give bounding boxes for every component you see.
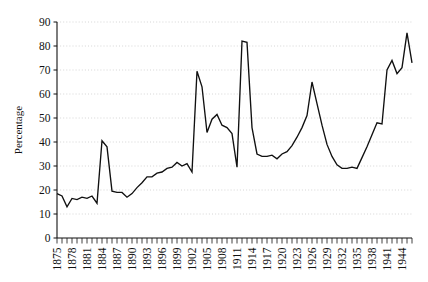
x-tick-label: 1887 bbox=[111, 247, 123, 270]
x-tick-label: 1908 bbox=[216, 247, 228, 270]
y-tick-label: 0 bbox=[45, 232, 51, 244]
x-tick-label: 1896 bbox=[156, 247, 168, 270]
y-tick-label: 20 bbox=[39, 184, 51, 196]
x-tick-label: 1929 bbox=[321, 247, 333, 270]
x-tick-label: 1917 bbox=[261, 247, 273, 270]
x-tick-label: 1911 bbox=[231, 247, 243, 270]
x-tick-label: 1926 bbox=[306, 247, 318, 270]
y-tick-label: 70 bbox=[39, 64, 51, 76]
x-tick-label: 1881 bbox=[81, 247, 93, 270]
y-tick-label: 80 bbox=[39, 40, 51, 52]
axes bbox=[57, 22, 412, 238]
x-tick-label: 1932 bbox=[336, 247, 348, 270]
x-axis-ticks bbox=[57, 238, 412, 244]
x-tick-label: 1905 bbox=[201, 247, 213, 270]
y-tick-label: 50 bbox=[39, 112, 51, 124]
y-tick-label: 90 bbox=[39, 16, 51, 28]
x-tick-label: 1935 bbox=[351, 247, 363, 270]
line-chart-canvas: 0102030405060708090 18751878188118841887… bbox=[0, 0, 428, 282]
x-tick-label: 1884 bbox=[96, 247, 108, 270]
y-tick-label: 30 bbox=[39, 160, 51, 172]
x-tick-label: 1938 bbox=[366, 247, 378, 270]
y-tick-label: 60 bbox=[39, 88, 51, 100]
chart-figure: 0102030405060708090 18751878188118841887… bbox=[0, 0, 428, 282]
x-tick-label: 1944 bbox=[396, 247, 408, 270]
y-tick-label: 40 bbox=[39, 136, 51, 148]
x-tick-label: 1878 bbox=[66, 247, 78, 270]
y-axis-title: Percentage bbox=[12, 106, 24, 154]
x-tick-label: 1914 bbox=[246, 247, 258, 270]
y-tick-label: 10 bbox=[39, 208, 51, 220]
y-axis-tick-labels: 0102030405060708090 bbox=[39, 16, 51, 244]
data-series-line-percentage bbox=[57, 33, 412, 207]
x-tick-label: 1890 bbox=[126, 247, 138, 270]
x-tick-label: 1899 bbox=[171, 247, 183, 270]
x-axis-tick-labels: 1875187818811884188718901893189618991902… bbox=[51, 247, 408, 270]
x-tick-label: 1902 bbox=[186, 247, 198, 270]
x-tick-label: 1923 bbox=[291, 247, 303, 270]
x-tick-label: 1920 bbox=[276, 247, 288, 270]
plot-area bbox=[57, 33, 412, 207]
x-tick-label: 1875 bbox=[51, 247, 63, 270]
x-tick-label: 1893 bbox=[141, 247, 153, 270]
gridlines bbox=[57, 22, 412, 214]
x-tick-label: 1941 bbox=[381, 247, 393, 270]
